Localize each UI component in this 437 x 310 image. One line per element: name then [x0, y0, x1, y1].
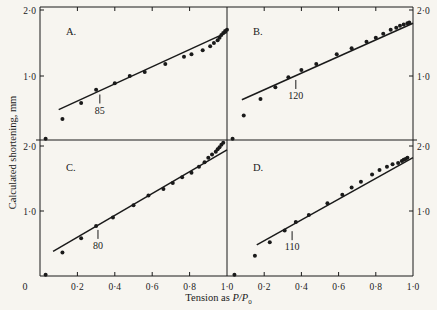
- data-point: [307, 213, 311, 217]
- data-point: [340, 193, 344, 197]
- x-tick-label: 0·2: [71, 282, 84, 292]
- data-point: [299, 68, 303, 72]
- data-point: [253, 254, 257, 258]
- panel-letter: A.: [66, 26, 76, 37]
- data-point: [374, 36, 378, 40]
- data-point: [350, 46, 354, 50]
- data-point: [60, 251, 64, 255]
- data-point: [146, 193, 150, 197]
- x-tick-label: 0·4: [108, 282, 121, 292]
- annotation-label: 80: [93, 240, 103, 251]
- x-axis-label: Tension as P/P0: [0, 292, 437, 306]
- x-tick-label: 0·6: [146, 282, 159, 292]
- y-axis-label: Calculated shortening, mm: [7, 83, 18, 223]
- data-point: [385, 165, 389, 169]
- data-point: [182, 55, 186, 59]
- annotation-label: 85: [95, 105, 105, 116]
- data-point: [405, 156, 409, 160]
- data-point: [44, 273, 48, 277]
- data-point: [359, 180, 363, 184]
- data-point: [189, 52, 193, 56]
- panel-a: 1·02·0A.85: [23, 6, 229, 141]
- data-point: [163, 62, 167, 66]
- data-point: [378, 168, 382, 172]
- data-point: [113, 81, 117, 85]
- y-tick-label: 1·0: [417, 207, 430, 217]
- data-point: [180, 175, 184, 179]
- y-tick-label: 2·0: [23, 6, 36, 16]
- panel-letter: B.: [253, 26, 263, 37]
- data-point: [132, 203, 136, 207]
- figure-canvas: 01·02·0A.851·02·0B.1201·02·00·20·40·60·8…: [0, 0, 437, 310]
- fit-line: [53, 150, 227, 251]
- fit-line: [242, 23, 413, 100]
- data-point: [381, 32, 385, 36]
- data-point: [242, 114, 246, 118]
- panel-letter: D.: [253, 162, 263, 173]
- fit-line: [59, 32, 227, 109]
- data-point: [396, 161, 400, 165]
- data-point: [210, 152, 214, 156]
- data-point: [407, 21, 411, 25]
- data-point: [273, 85, 277, 89]
- data-point: [389, 28, 393, 32]
- panel-d: 1·02·00·20·40·60·81·0D.110: [232, 142, 429, 293]
- data-point: [208, 44, 212, 48]
- x-axis-label-subscript: 0: [248, 298, 252, 306]
- x-axis-label-math: P/P: [232, 292, 248, 303]
- data-point: [128, 74, 132, 78]
- x-tick-label: 0·2: [258, 282, 271, 292]
- y-tick-label: 2·0: [417, 6, 430, 16]
- data-point: [402, 23, 406, 27]
- data-point: [225, 28, 229, 32]
- data-point: [189, 171, 193, 175]
- y-tick-label: 2·0: [23, 142, 36, 152]
- x-tick-label: 0·4: [295, 282, 308, 292]
- data-point: [111, 216, 115, 220]
- data-point: [60, 117, 64, 121]
- data-point: [197, 165, 201, 169]
- data-point: [79, 236, 83, 240]
- origin-label: 0: [23, 281, 28, 292]
- data-point: [325, 201, 329, 205]
- data-point: [335, 52, 339, 56]
- annotation-label: 110: [285, 241, 300, 252]
- data-point: [232, 273, 236, 277]
- x-tick-label: 1·0: [221, 282, 234, 292]
- data-point: [394, 26, 398, 30]
- data-point: [398, 24, 402, 28]
- data-point: [286, 75, 290, 79]
- data-point: [94, 224, 98, 228]
- x-tick-label: 0·6: [332, 282, 345, 292]
- data-point: [203, 160, 207, 164]
- annotation-label: 120: [288, 90, 303, 101]
- data-point: [201, 48, 205, 52]
- data-point: [268, 240, 272, 244]
- data-point: [79, 101, 83, 105]
- data-point: [44, 137, 48, 141]
- panel-b: 1·02·0B.120: [231, 6, 430, 141]
- data-point: [314, 62, 318, 66]
- data-point: [391, 162, 395, 166]
- y-tick-label: 1·0: [23, 207, 36, 217]
- x-tick-label: 1·0: [407, 282, 420, 292]
- data-point: [231, 137, 235, 141]
- panel-c: 1·02·00·20·40·60·81·0C.80: [23, 141, 233, 292]
- x-tick-label: 0·8: [369, 282, 382, 292]
- data-point: [258, 97, 262, 101]
- panel-letter: C.: [66, 162, 76, 173]
- data-point: [221, 141, 225, 145]
- y-tick-label: 1·0: [417, 72, 430, 82]
- data-point: [206, 156, 210, 160]
- y-tick-label: 1·0: [23, 72, 36, 82]
- data-point: [161, 187, 165, 191]
- data-point: [365, 40, 369, 44]
- data-point: [370, 173, 374, 177]
- x-axis-label-prefix: Tension as: [185, 292, 232, 303]
- data-point: [294, 220, 298, 224]
- x-tick-label: 0·8: [183, 282, 196, 292]
- data-point: [212, 41, 216, 45]
- y-tick-label: 2·0: [417, 142, 430, 152]
- data-point: [143, 70, 147, 74]
- data-point: [171, 181, 175, 185]
